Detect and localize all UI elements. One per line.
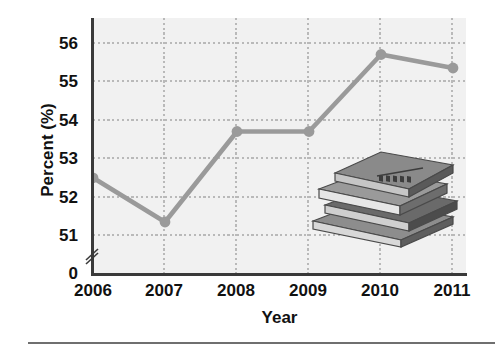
data-point-2009 bbox=[304, 126, 315, 137]
data-point-2007 bbox=[160, 217, 171, 228]
y-tick-56: 56 bbox=[32, 35, 78, 52]
x-tick-2011: 2011 bbox=[416, 282, 488, 299]
y-tick-53: 53 bbox=[32, 150, 78, 167]
y-tick-55: 55 bbox=[32, 73, 78, 90]
y-axis-spine bbox=[91, 18, 94, 261]
data-point-2010 bbox=[376, 49, 387, 60]
y-tick-52: 52 bbox=[32, 189, 78, 206]
y-tick-51: 51 bbox=[32, 227, 78, 244]
y-tick-54: 54 bbox=[32, 112, 78, 129]
data-point-2008 bbox=[232, 126, 243, 137]
footer-rule bbox=[28, 342, 495, 344]
data-point-2011 bbox=[448, 63, 459, 74]
x-axis-title: Year bbox=[93, 308, 466, 328]
x-tick-2009: 2009 bbox=[272, 282, 344, 299]
y-axis-tick-labels: 56 55 54 53 52 51 0 bbox=[32, 0, 78, 352]
x-tick-2010: 2010 bbox=[344, 282, 416, 299]
stack-of-books-icon bbox=[305, 143, 465, 251]
x-tick-2007: 2007 bbox=[128, 282, 200, 299]
y-tick-0: 0 bbox=[32, 265, 78, 282]
x-axis-spine bbox=[91, 273, 467, 276]
x-tick-2006: 2006 bbox=[57, 282, 129, 299]
x-tick-2008: 2008 bbox=[200, 282, 272, 299]
axis-break-icon bbox=[83, 246, 103, 266]
chart-figure: Percent (%) 56 55 54 53 52 51 0 bbox=[0, 0, 495, 352]
